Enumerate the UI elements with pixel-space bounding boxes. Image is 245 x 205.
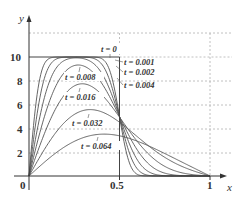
y-tick-8: 8 bbox=[17, 75, 23, 87]
label-t-0-064: t = 0.064 bbox=[81, 141, 112, 151]
y-tick-4: 4 bbox=[17, 123, 23, 135]
label-t-0-004: t = 0.004 bbox=[124, 80, 155, 90]
x-axis-label: x bbox=[226, 181, 232, 193]
grid-lines bbox=[29, 33, 232, 176]
label-t-0-008: t = 0.008 bbox=[65, 72, 96, 82]
heat-equation-chart: y x 10 8 6 4 2 0 0.5 1 t = 0 t = 0.001 t… bbox=[0, 0, 245, 205]
origin-label: 0 bbox=[20, 179, 26, 191]
x-tick-0-5: 0.5 bbox=[110, 179, 124, 191]
label-t-0: t = 0 bbox=[101, 44, 117, 54]
x-tick-1: 1 bbox=[207, 179, 213, 191]
label-t-0-002: t = 0.002 bbox=[124, 67, 155, 77]
y-tick-6: 6 bbox=[17, 99, 23, 111]
y-tick-10: 10 bbox=[10, 51, 22, 63]
label-t-0-032: t = 0.032 bbox=[72, 118, 103, 128]
y-tick-2: 2 bbox=[17, 147, 23, 159]
axes bbox=[14, 15, 227, 190]
y-axis-label: y bbox=[18, 12, 24, 24]
label-t-0-001: t = 0.001 bbox=[124, 57, 155, 67]
label-t-0-016: t = 0.016 bbox=[65, 92, 96, 102]
